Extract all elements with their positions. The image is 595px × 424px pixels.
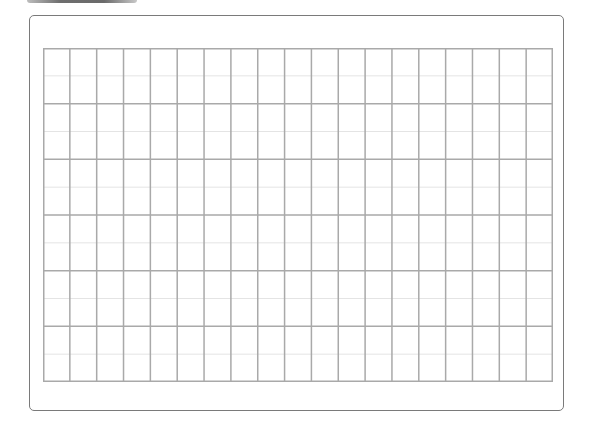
top-tab-decoration [27, 0, 137, 3]
ruled-grid [43, 48, 553, 382]
grid-lines [43, 48, 553, 382]
